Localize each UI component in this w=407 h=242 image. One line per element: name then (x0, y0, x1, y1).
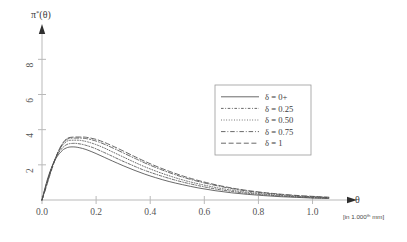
y-tick-label: 4 (25, 133, 35, 138)
y-axis-title: π*(θ) (31, 9, 51, 22)
x-tick-label: 1.0 (307, 207, 319, 217)
y-tick-label: 6 (25, 98, 35, 103)
legend-label-4: δ = 1 (265, 138, 283, 148)
x-tick-label: 0.6 (198, 207, 210, 217)
x-axis-unit-text: [in 1.000ᵗʰ mm] (343, 213, 384, 220)
x-tick-label: 0.4 (144, 207, 156, 217)
legend-label-1: δ = 0.25 (265, 104, 293, 114)
x-tick-label: 0.2 (90, 207, 102, 217)
y-tick-label: 8 (25, 62, 35, 67)
y-axis-ticks: 2468 (25, 59, 46, 173)
y-axis-title-text: π*(θ) (31, 9, 51, 22)
x-axis-title-text: θ (355, 194, 360, 205)
y-axis-arrowhead (39, 24, 45, 34)
legend-label-0: δ = 0+ (265, 92, 287, 102)
x-tick-label: 0.8 (252, 207, 264, 217)
x-tick-label: 0.0 (36, 207, 48, 217)
chart-legend: δ = 0+δ = 0.25δ = 0.50δ = 0.75δ = 1 (215, 85, 311, 155)
legend-label-2: δ = 0.50 (265, 115, 293, 125)
chart-figure: 2468 0.00.20.40.60.81.0 π*(θ) θ [in 1.00… (0, 0, 407, 242)
legend-label-3: δ = 0.75 (265, 127, 293, 137)
y-tick-label: 2 (25, 168, 35, 173)
plot-canvas: 2468 0.00.20.40.60.81.0 π*(θ) θ [in 1.00… (0, 0, 407, 242)
x-axis-ticks: 0.00.20.40.60.81.0 (36, 196, 319, 217)
